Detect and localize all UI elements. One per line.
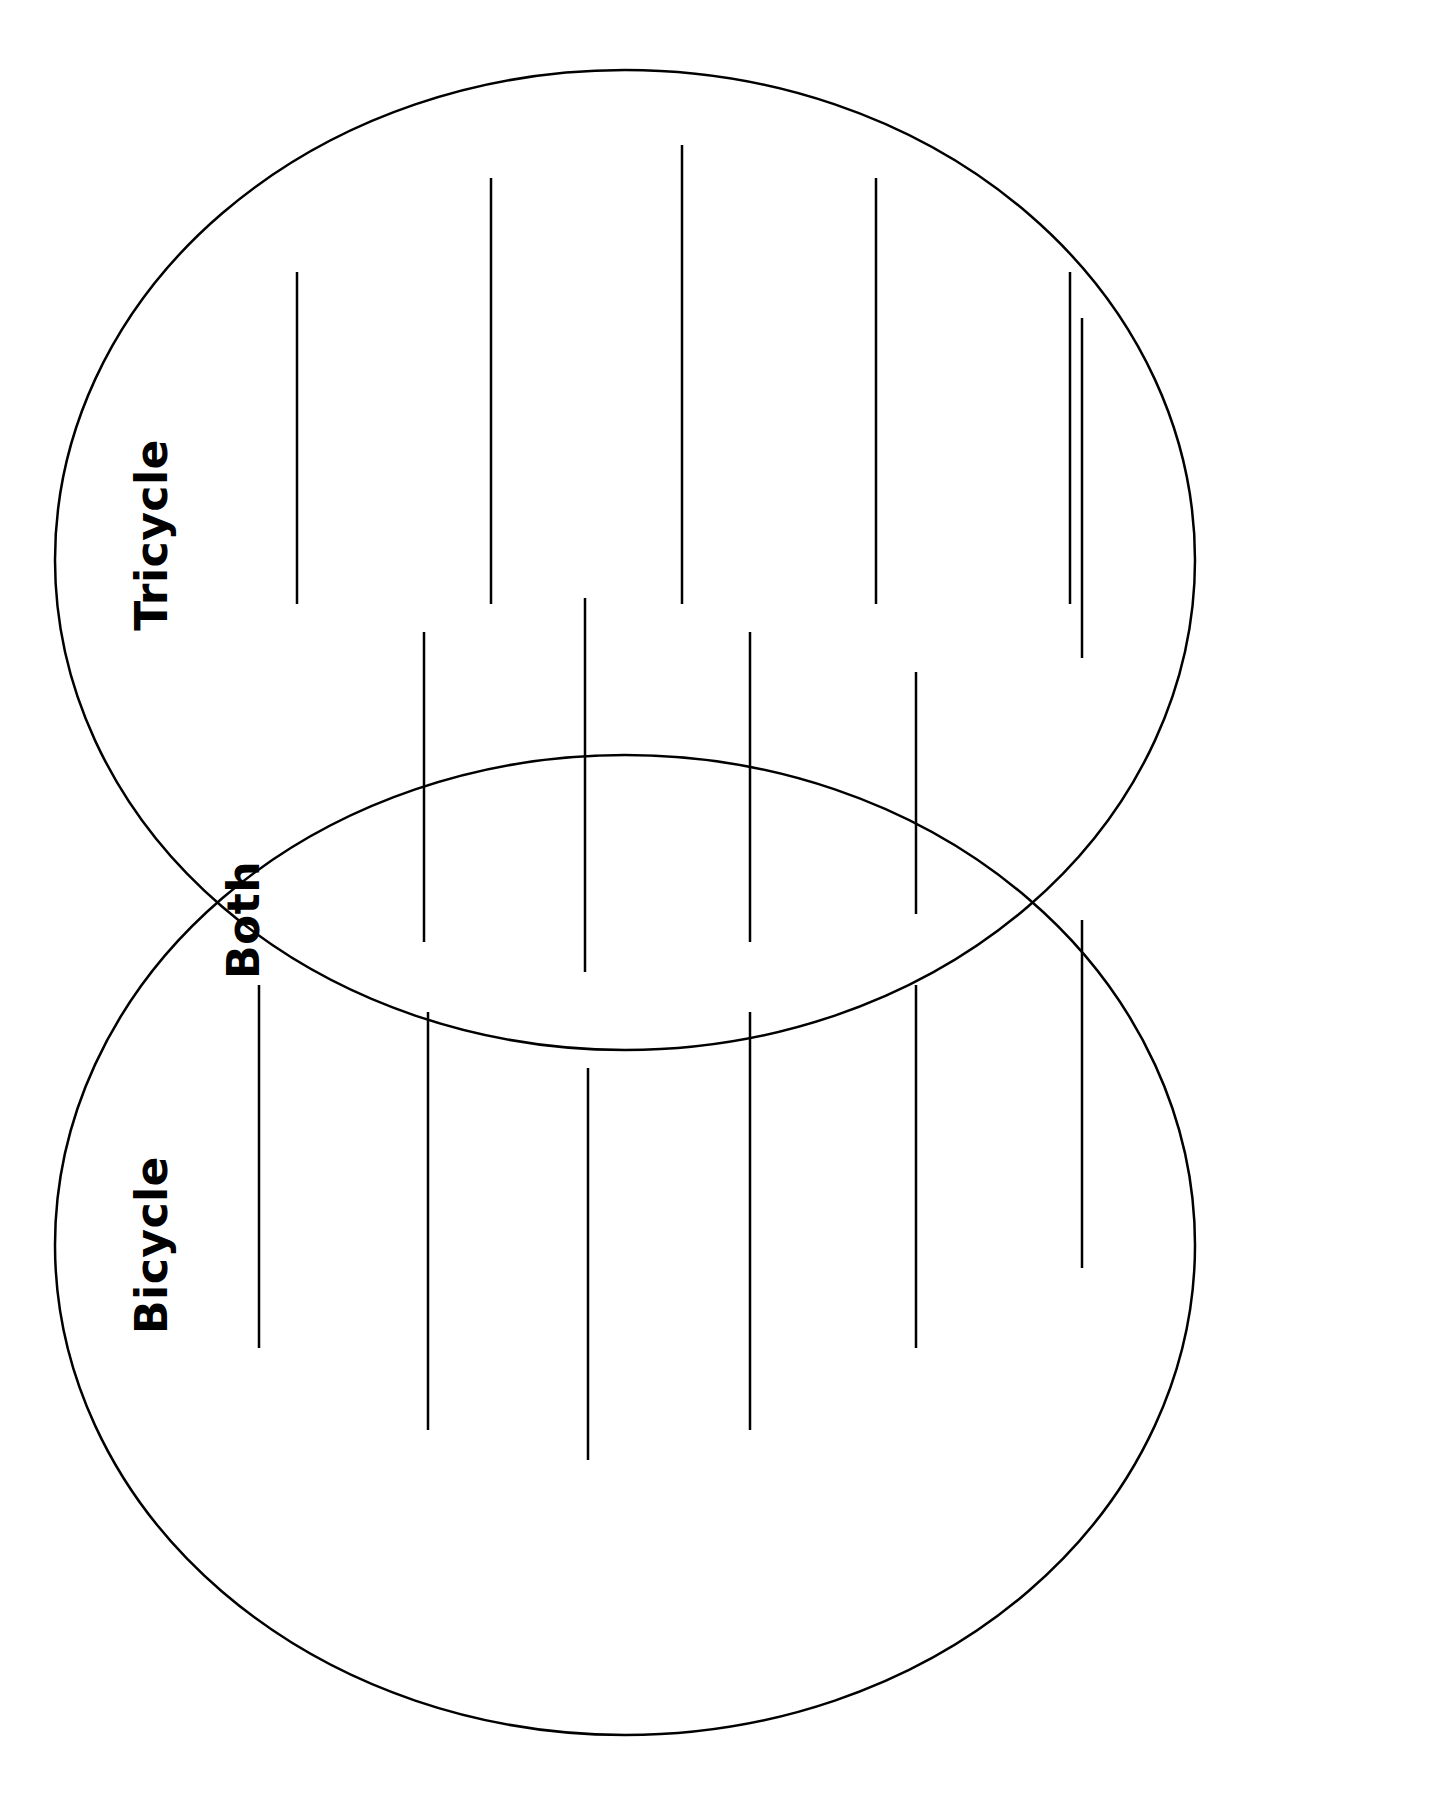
worksheet-page: Tricycle Both Bicycle xyxy=(0,0,1448,1812)
tricycle-region-label: Tricycle xyxy=(130,439,174,631)
both-region-label: Both xyxy=(222,861,266,979)
writing-lines-both xyxy=(424,318,1082,972)
writing-lines-tricycle xyxy=(297,145,1070,604)
bicycle-region-label: Bicycle xyxy=(130,1156,174,1334)
writing-lines-bicycle xyxy=(259,920,1082,1460)
